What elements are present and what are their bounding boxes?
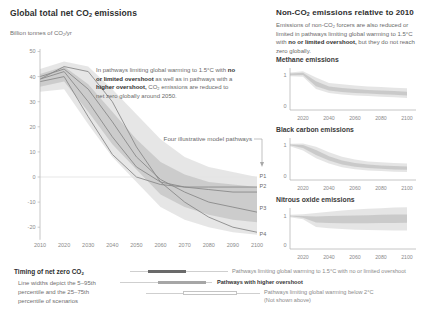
y-unit-text: Billion tonnes of CO: [10, 30, 63, 36]
right-intro-text: Emissions of non-CO2 forcers are also re…: [276, 21, 423, 55]
x-tick-label: 2100: [401, 185, 413, 191]
y-tick-label: 0: [32, 174, 35, 180]
legend-label-1p5: Pathways limiting global warming to 1.5°…: [232, 268, 424, 276]
legend-note-line-1: Line widths depict the 5–95th: [18, 279, 96, 288]
nitrous-oxide-chart-title: Nitrous oxide emissions: [276, 196, 355, 203]
annotation-text-3: CO: [147, 84, 158, 90]
x-tick-label: 2040: [106, 242, 118, 248]
pathway-tag-p1: P1: [260, 173, 267, 179]
y-tick-label: 10: [29, 149, 35, 155]
left-title-text: Global total net CO: [10, 8, 89, 18]
pathways-callout-bracket: [254, 139, 262, 163]
pathways-callout-label: Four illustrative model pathways: [164, 135, 252, 142]
x-tick-label: 2100: [251, 242, 263, 248]
y-tick-label: -10: [28, 199, 36, 205]
timing-text: Timing of net zero CO: [14, 268, 81, 275]
chart-annotation: In pathways limiting global warming to 1…: [96, 66, 236, 100]
y-unit-post: /yr: [65, 30, 72, 36]
x-tick-label: 2060: [349, 185, 361, 191]
right-column-title: Non-CO2 emissions relative to 2010: [276, 8, 414, 17]
legend-bar-1p5: [148, 270, 186, 273]
y-tick-label: 1: [283, 142, 286, 148]
timing-legend-heading: Timing of net zero CO2: [14, 268, 84, 275]
x-tick-label: 2100: [401, 254, 413, 260]
x-tick-label: 2100: [401, 115, 413, 121]
black-carbon-chart: 1020202040206020802100: [276, 136, 424, 198]
legend-bar-overshoot: [158, 281, 206, 284]
legend-label-below2c: Pathways limiting global warming below 2…: [264, 289, 414, 304]
intro-bold: no or limited overshoot,: [288, 39, 356, 45]
x-tick-label: 2020: [297, 254, 309, 260]
y-tick-label: 0: [283, 242, 286, 248]
x-tick-label: 2080: [375, 115, 387, 121]
annotation-bold-2: higher overshoot,: [96, 84, 147, 90]
methane-chart-title: Methane emissions: [276, 56, 339, 63]
y-tick-label: 1: [283, 72, 286, 78]
intro-text: Emissions of non-CO: [276, 22, 333, 28]
x-tick-label: 2010: [34, 242, 46, 248]
figure-canvas: Global total net CO2 emissions Billion t…: [0, 0, 424, 319]
band-25-75: [290, 73, 407, 96]
y-tick-label: 40: [29, 74, 35, 80]
x-tick-label: 2090: [227, 242, 239, 248]
x-tick-label: 2080: [375, 185, 387, 191]
legend-note-line-2: percentile and the 25–75th: [18, 288, 89, 297]
nitrous-oxide-chart: 1020202040206020802100: [276, 206, 424, 268]
legend-label-overshoot: Pathways with higher overshoot: [217, 279, 303, 287]
x-tick-label: 2050: [130, 242, 142, 248]
timing-sub: 2: [81, 271, 83, 276]
right-title-text: Non-CO: [276, 8, 307, 17]
x-tick-label: 2020: [297, 115, 309, 121]
x-tick-label: 2080: [203, 242, 215, 248]
y-axis-unit-label: Billion tonnes of CO2/yr: [10, 30, 72, 36]
legend-label-below2c-line2: (Not shown above): [264, 297, 311, 303]
left-chart-title: Global total net CO2 emissions: [10, 8, 137, 18]
y-tick-label: 50: [29, 48, 35, 54]
pathways-callout-arrow: [260, 162, 264, 167]
y-tick-label: 30: [29, 99, 35, 105]
black-carbon-chart-title: Black carbon emissions: [276, 126, 354, 133]
legend-label-below2c-line1: Pathways limiting global warming below 2…: [264, 289, 374, 295]
pathway-tag-p2: P2: [260, 183, 267, 189]
annotation-text: In pathways limiting global warming to 1…: [96, 67, 228, 73]
x-tick-label: 2080: [375, 254, 387, 260]
x-tick-label: 2040: [323, 185, 335, 191]
x-tick-label: 2040: [323, 115, 335, 121]
x-tick-label: 2070: [179, 242, 191, 248]
y-tick-label: 1: [283, 213, 286, 219]
legend-note-line-3: percentile of scenarios: [18, 297, 78, 306]
y-tick-label: -20: [28, 224, 36, 230]
legend-bar-below2c: [183, 291, 237, 295]
y-tick-label: 20: [29, 124, 35, 130]
x-tick-label: 2020: [58, 242, 70, 248]
x-tick-label: 2030: [82, 242, 94, 248]
pathway-tag-p3: P3: [260, 205, 267, 211]
x-tick-label: 2060: [154, 242, 166, 248]
x-tick-label: 2040: [323, 254, 335, 260]
x-tick-label: 2020: [297, 185, 309, 191]
annotation-text-2: as well as in pathways with a: [154, 76, 233, 82]
y-tick-label: 0: [283, 173, 286, 179]
x-tick-label: 2060: [349, 115, 361, 121]
x-tick-label: 2060: [349, 254, 361, 260]
right-title-post: emissions relative to 2010: [310, 8, 414, 17]
y-tick-label: 0: [283, 103, 286, 109]
pathway-tag-p4: P4: [260, 231, 267, 237]
left-title-post: emissions: [92, 8, 137, 18]
methane-chart: 1020202040206020802100: [276, 66, 424, 128]
